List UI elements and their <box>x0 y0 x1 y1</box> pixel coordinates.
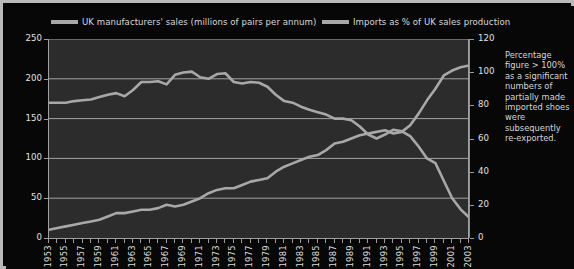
x-axis-tick <box>132 239 133 243</box>
y-axis-right-tick <box>470 172 474 173</box>
y-axis-left-tick <box>44 79 48 80</box>
x-axis-tick <box>418 239 419 243</box>
x-axis-tick <box>174 239 175 243</box>
y-axis-right-tick <box>470 39 474 40</box>
x-axis-tick-label: 1965 <box>144 245 153 268</box>
x-axis-tick-label: 1963 <box>128 245 137 268</box>
x-axis-tick <box>191 239 192 243</box>
x-axis-tick <box>140 239 141 243</box>
x-axis-tick <box>90 239 91 243</box>
x-axis-tick <box>434 239 435 243</box>
x-axis-tick <box>350 239 351 243</box>
y-axis-right-tick <box>470 205 474 206</box>
x-axis-tick <box>468 239 469 243</box>
y-axis-left-tick-label: 150 <box>8 114 42 123</box>
x-axis-tick <box>283 239 284 243</box>
x-axis-tick-label: 1955 <box>60 245 69 268</box>
y-axis-right-tick <box>470 238 474 239</box>
y-axis-right-tick-label: 0 <box>478 233 512 242</box>
x-axis-tick-label: 1997 <box>413 245 422 268</box>
legend-label-imports: Imports as % of UK sales production <box>353 17 510 27</box>
x-axis-tick-label: 1975 <box>228 245 237 268</box>
x-axis-tick-label: 1989 <box>346 245 355 268</box>
x-axis-tick-label: 1959 <box>94 245 103 268</box>
x-axis-tick-label: 1981 <box>279 245 288 268</box>
y-axis-left-tick <box>44 119 48 120</box>
x-axis-tick <box>292 239 293 243</box>
y-axis-left-tick-label: 0 <box>8 233 42 242</box>
series-line-uk-sales <box>49 72 469 218</box>
y-axis-left-line <box>48 39 49 239</box>
x-axis-tick-label: 1995 <box>396 245 405 268</box>
x-axis-tick <box>451 239 452 243</box>
x-axis-tick <box>359 239 360 243</box>
x-axis-tick-label: 2001 <box>447 245 456 268</box>
y-axis-left-tick-label: 50 <box>8 193 42 202</box>
x-axis-tick <box>384 239 385 243</box>
x-axis-tick-label: 1999 <box>430 245 439 268</box>
x-axis-tick <box>115 239 116 243</box>
x-axis-tick-label: 1973 <box>212 245 221 268</box>
x-axis-tick <box>157 239 158 243</box>
y-axis-left-tick <box>44 198 48 199</box>
x-axis-tick <box>224 239 225 243</box>
x-axis-tick <box>443 239 444 243</box>
x-axis-tick <box>82 239 83 243</box>
x-axis-tick <box>199 239 200 243</box>
x-axis-tick-label: 1969 <box>178 245 187 268</box>
x-axis-tick <box>233 239 234 243</box>
legend-item-imports: Imports as % of UK sales production <box>322 17 510 27</box>
x-axis-tick <box>266 239 267 243</box>
plot-area <box>48 39 470 238</box>
y-axis-right-line <box>468 39 469 239</box>
x-axis-tick <box>258 239 259 243</box>
y-axis-left-tick-label: 200 <box>8 74 42 83</box>
x-axis-tick <box>166 239 167 243</box>
x-axis-tick-label: 1957 <box>77 245 86 268</box>
x-axis-tick <box>149 239 150 243</box>
x-axis-tick <box>300 239 301 243</box>
x-axis-tick-label: 1991 <box>363 245 372 268</box>
x-axis-tick-label: 1987 <box>329 245 338 268</box>
y-axis-left-tick-label: 100 <box>8 153 42 162</box>
x-axis-tick <box>216 239 217 243</box>
x-axis-tick-label: 1977 <box>245 245 254 268</box>
x-axis-tick-label: 1993 <box>380 245 389 268</box>
y-axis-left-tick <box>44 39 48 40</box>
chart-canvas: UK manufacturers' sales (millions of pai… <box>6 6 574 269</box>
y-axis-right-tick <box>470 105 474 106</box>
chart-legend: UK manufacturers' sales (millions of pai… <box>6 17 506 33</box>
x-axis-tick-label: 1971 <box>195 245 204 268</box>
chart-figure: UK manufacturers' sales (millions of pai… <box>0 0 574 269</box>
x-axis-tick <box>73 239 74 243</box>
y-axis-right-tick-label: 40 <box>478 167 512 176</box>
x-axis-tick <box>334 239 335 243</box>
x-axis-tick-label: 1985 <box>312 245 321 268</box>
legend-swatch-uk-sales <box>51 20 78 24</box>
x-axis-tick <box>308 239 309 243</box>
x-axis-tick <box>460 239 461 243</box>
x-axis-tick <box>107 239 108 243</box>
x-axis-tick <box>275 239 276 243</box>
x-axis-tick <box>208 239 209 243</box>
x-axis-tick <box>401 239 402 243</box>
x-axis-tick-label: 1953 <box>44 245 53 268</box>
x-axis-tick-label: 1979 <box>262 245 271 268</box>
x-axis-tick <box>409 239 410 243</box>
gridlines <box>49 39 469 198</box>
y-axis-right-tick-label: 120 <box>478 34 512 43</box>
x-axis-tick <box>367 239 368 243</box>
x-axis-tick-label: 2003 <box>464 245 473 268</box>
x-axis-tick <box>48 239 49 243</box>
x-axis-tick <box>182 239 183 243</box>
x-axis-tick <box>124 239 125 243</box>
x-axis-tick <box>325 239 326 243</box>
plot-svg <box>49 39 469 238</box>
legend-label-uk-sales: UK manufacturers' sales (millions of pai… <box>82 17 316 27</box>
x-axis-tick <box>65 239 66 243</box>
x-axis-tick-label: 1967 <box>161 245 170 268</box>
x-axis-tick <box>392 239 393 243</box>
x-axis-tick <box>426 239 427 243</box>
x-axis-tick <box>317 239 318 243</box>
y-axis-right-tick <box>470 139 474 140</box>
